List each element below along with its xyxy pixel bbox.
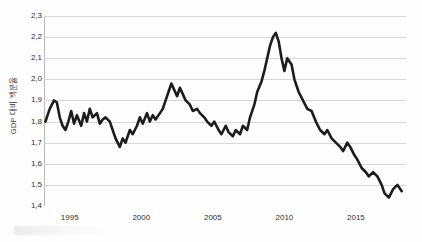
x-tick-label: 2015 xyxy=(347,214,365,222)
x-tick-label: 2005 xyxy=(204,214,222,222)
plot-area xyxy=(44,16,406,206)
x-tick-label: 2000 xyxy=(132,214,150,222)
y-axis-tick-labels: 1,41,51,61,71,81,92,02,12,22,3 xyxy=(16,0,42,242)
chart-figure: GDP 대비 백분율 1,41,51,61,71,81,92,02,12,22,… xyxy=(0,0,422,242)
y-tick-label: 2,2 xyxy=(20,33,42,41)
line-chart-svg xyxy=(44,16,406,206)
y-tick-label: 2,3 xyxy=(20,12,42,20)
gridlines xyxy=(44,17,406,207)
y-tick-label: 1,5 xyxy=(20,181,42,189)
x-tick-label: 2010 xyxy=(275,214,293,222)
y-tick-label: 2,1 xyxy=(20,54,42,62)
y-tick-label: 1,8 xyxy=(20,118,42,126)
x-tick-label: 1995 xyxy=(61,214,79,222)
y-tick-label: 1,4 xyxy=(20,202,42,210)
y-tick-label: 1,7 xyxy=(20,139,42,147)
y-tick-label: 2,0 xyxy=(20,75,42,83)
data-series-line xyxy=(45,33,401,198)
y-tick-label: 1,6 xyxy=(20,160,42,168)
y-tick-label: 1,9 xyxy=(20,96,42,104)
